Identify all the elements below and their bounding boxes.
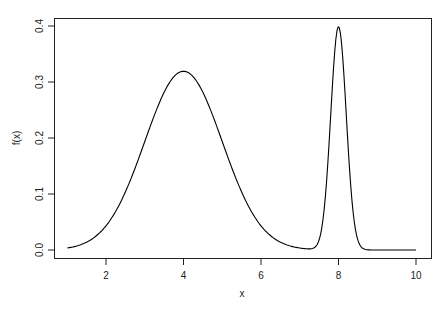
y-tick-label: 0.0 (34, 243, 45, 257)
y-axis: 0.00.10.20.30.4 (34, 19, 54, 257)
x-tick-label: 10 (410, 270, 422, 281)
y-axis-label: f(x) (11, 131, 22, 145)
y-tick-label: 0.2 (34, 131, 45, 145)
x-tick-label: 8 (336, 270, 342, 281)
x-axis: 246810 (103, 259, 422, 281)
y-tick-label: 0.3 (34, 75, 45, 89)
density-curve (67, 27, 416, 250)
x-tick-label: 6 (258, 270, 264, 281)
y-tick-label: 0.1 (34, 187, 45, 201)
y-tick-label: 0.4 (34, 19, 45, 33)
x-tick-label: 4 (181, 270, 187, 281)
density-plot: 246810 0.00.10.20.30.4 x f(x) (0, 0, 448, 311)
plot-frame (55, 19, 432, 259)
x-tick-label: 2 (103, 270, 109, 281)
x-axis-label: x (240, 288, 245, 299)
